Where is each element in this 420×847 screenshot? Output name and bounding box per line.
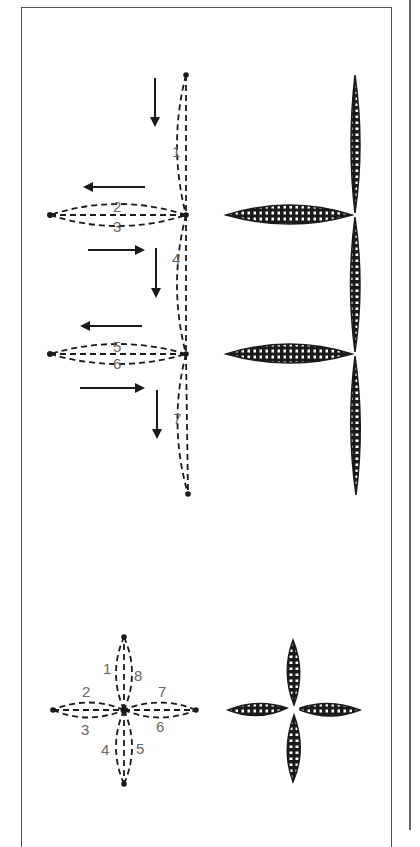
petal-bottom [287,715,300,782]
stitch-5-curve [124,710,132,784]
stitch-label: 2 [82,683,90,700]
stitch-label: 1 [172,143,180,160]
stitch-label: 3 [81,721,89,738]
stitch-3-curve [53,710,124,718]
point-leaf-2-tip [47,351,53,357]
point-junction-1 [183,212,189,218]
upper-stitch-labels: 1 2 3 4 5 6 7 [113,143,181,427]
stitch-label: 5 [113,338,121,355]
lower-embroidery-sample [228,640,360,782]
upper-stitch-path [50,75,188,494]
petal-left [228,703,287,715]
stitch-label: 8 [134,667,142,684]
stitch-1-curve [116,637,124,710]
upper-embroidery-sample [226,75,360,495]
point-top [183,72,189,78]
stitch-label: 7 [173,410,181,427]
stitch-7-curve [124,703,196,711]
stitch-label: 6 [113,355,121,372]
point-junction-2 [183,351,189,357]
stitch-4-curve [177,215,186,354]
stem-segment-2 [351,217,361,352]
petal-right [300,703,360,716]
direction-arrows [80,78,157,434]
stitch-label: 4 [101,741,109,758]
stem-segment-3 [351,356,361,495]
stitch-label: 2 [113,198,121,215]
stitch-label: 5 [136,740,144,757]
stitch-8-curve [124,637,132,710]
petal-top [287,640,300,705]
stitch-label: 1 [103,660,111,677]
point-right [193,707,199,713]
point-bottom [185,491,191,497]
upper-stitch-points [47,72,191,497]
stitch-7-straight [186,354,188,494]
point-top [121,634,127,640]
point-left [50,707,56,713]
leaf-1 [226,205,352,224]
point-center [121,707,128,714]
stitch-label: 6 [156,718,164,735]
stitch-label: 4 [172,250,180,267]
stitch-2-curve [53,703,124,711]
point-bottom [121,781,127,787]
stitch-label: 7 [158,683,166,700]
stitch-label: 3 [113,218,121,235]
leaf-2 [226,344,352,363]
stitch-6-curve [124,710,196,718]
stem-segment-1 [351,75,360,213]
stitch-4-curve [116,710,124,784]
point-leaf-1-tip [47,212,53,218]
